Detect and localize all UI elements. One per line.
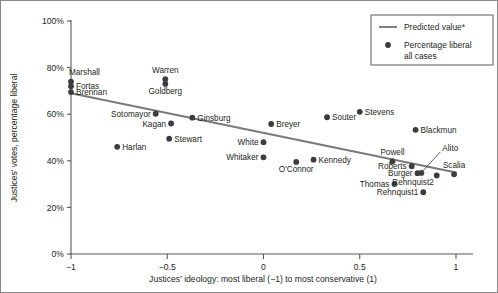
y-tick-label: 20% bbox=[47, 203, 65, 213]
data-point-fortas[interactable] bbox=[68, 83, 74, 89]
point-label-brennan: Brennan bbox=[76, 88, 107, 97]
x-tick-label: 0 bbox=[261, 262, 266, 272]
data-point-whitaker[interactable] bbox=[261, 154, 267, 160]
point-label-goldberg: Goldberg bbox=[148, 87, 182, 96]
chart-figure: 0%20%40%60%80%100%−1−0.500.51Justices' i… bbox=[0, 0, 498, 293]
point-label-rehnquist2: Rehnquist2 bbox=[392, 178, 434, 187]
y-axis-title: Justices' votes, percentage liberal bbox=[9, 74, 19, 203]
scatter-plot: 0%20%40%60%80%100%−1−0.500.51Justices' i… bbox=[1, 1, 498, 293]
y-axis-ticks: 0%20%40%60%80%100% bbox=[42, 16, 71, 259]
point-label-white: White bbox=[238, 138, 259, 147]
point-label-breyer: Breyer bbox=[276, 120, 300, 129]
point-label-warren: Warren bbox=[152, 66, 179, 75]
data-point-kagan[interactable] bbox=[168, 121, 174, 127]
x-tick-label: −1 bbox=[66, 262, 76, 272]
data-point-sotomayor[interactable] bbox=[153, 111, 159, 117]
y-tick-label: 0% bbox=[52, 249, 65, 259]
data-point-harlan[interactable] bbox=[114, 144, 120, 150]
data-point-souter[interactable] bbox=[324, 114, 330, 120]
y-tick-label: 100% bbox=[42, 16, 64, 26]
legend: Predicted value*Percentage liberalall ca… bbox=[371, 15, 493, 65]
data-point-alito[interactable] bbox=[418, 170, 424, 176]
point-label-whitaker: Whitaker bbox=[226, 153, 259, 162]
point-label-souter: Souter bbox=[332, 113, 356, 122]
point-label-kennedy: Kennedy bbox=[319, 156, 352, 165]
data-point-rehnquist1[interactable] bbox=[420, 189, 426, 195]
x-tick-label: 0.5 bbox=[354, 262, 366, 272]
data-point-white[interactable] bbox=[261, 139, 267, 145]
point-label-sotomayor: Sotomayor bbox=[111, 110, 151, 119]
data-point-kennedy[interactable] bbox=[311, 157, 317, 163]
legend-label-predicted-value: Predicted value* bbox=[404, 22, 466, 32]
data-points-group: MarshallFortasBrennanWarrenGoldbergSotom… bbox=[68, 66, 466, 198]
point-label-rehnquist1: Rehnquist1 bbox=[377, 188, 419, 197]
data-point-scalia[interactable] bbox=[451, 171, 457, 177]
predicted-value-line bbox=[71, 93, 456, 172]
point-label-scalia: Scalia bbox=[443, 161, 466, 170]
data-point-rehnquist2[interactable] bbox=[434, 173, 440, 179]
x-tick-label: −0.5 bbox=[159, 262, 176, 272]
y-tick-label: 40% bbox=[47, 156, 65, 166]
point-label-stevens: Stevens bbox=[365, 108, 395, 117]
data-point-stewart[interactable] bbox=[166, 136, 172, 142]
x-tick-label: 1 bbox=[454, 262, 459, 272]
y-tick-label: 60% bbox=[47, 109, 65, 119]
point-label-powell: Powell bbox=[380, 148, 404, 157]
data-point-ginsburg[interactable] bbox=[189, 115, 195, 121]
point-label-stewart: Stewart bbox=[174, 135, 202, 144]
legend-dot-swatch bbox=[385, 42, 391, 48]
point-label-o-connor: O'Connor bbox=[279, 165, 314, 174]
x-axis-title: Justices' ideology: most liberal (−1) to… bbox=[149, 274, 377, 284]
data-point-blackmun[interactable] bbox=[413, 127, 419, 133]
x-axis-ticks: −1−0.500.51 bbox=[66, 254, 459, 272]
point-label-marshall: Marshall bbox=[69, 68, 100, 77]
point-label-harlan: Harlan bbox=[122, 143, 147, 152]
data-point-breyer[interactable] bbox=[268, 121, 274, 127]
data-point-brennan[interactable] bbox=[68, 89, 74, 95]
point-label-burger: Burger bbox=[388, 169, 413, 178]
point-label-blackmun: Blackmun bbox=[421, 126, 457, 135]
point-label-alito: Alito bbox=[442, 144, 458, 153]
data-point-stevens[interactable] bbox=[357, 109, 363, 115]
point-label-ginsburg: Ginsburg bbox=[197, 114, 231, 123]
y-tick-label: 80% bbox=[47, 63, 65, 73]
point-label-kagan: Kagan bbox=[142, 120, 166, 129]
